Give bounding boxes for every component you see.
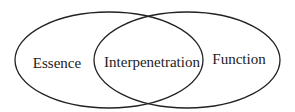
interpenetration-label: Interpenetration [104,54,200,70]
essence-label: Essence [33,55,82,71]
venn-diagram: Essence Interpenetration Function [0,0,295,112]
function-label: Function [212,51,266,67]
